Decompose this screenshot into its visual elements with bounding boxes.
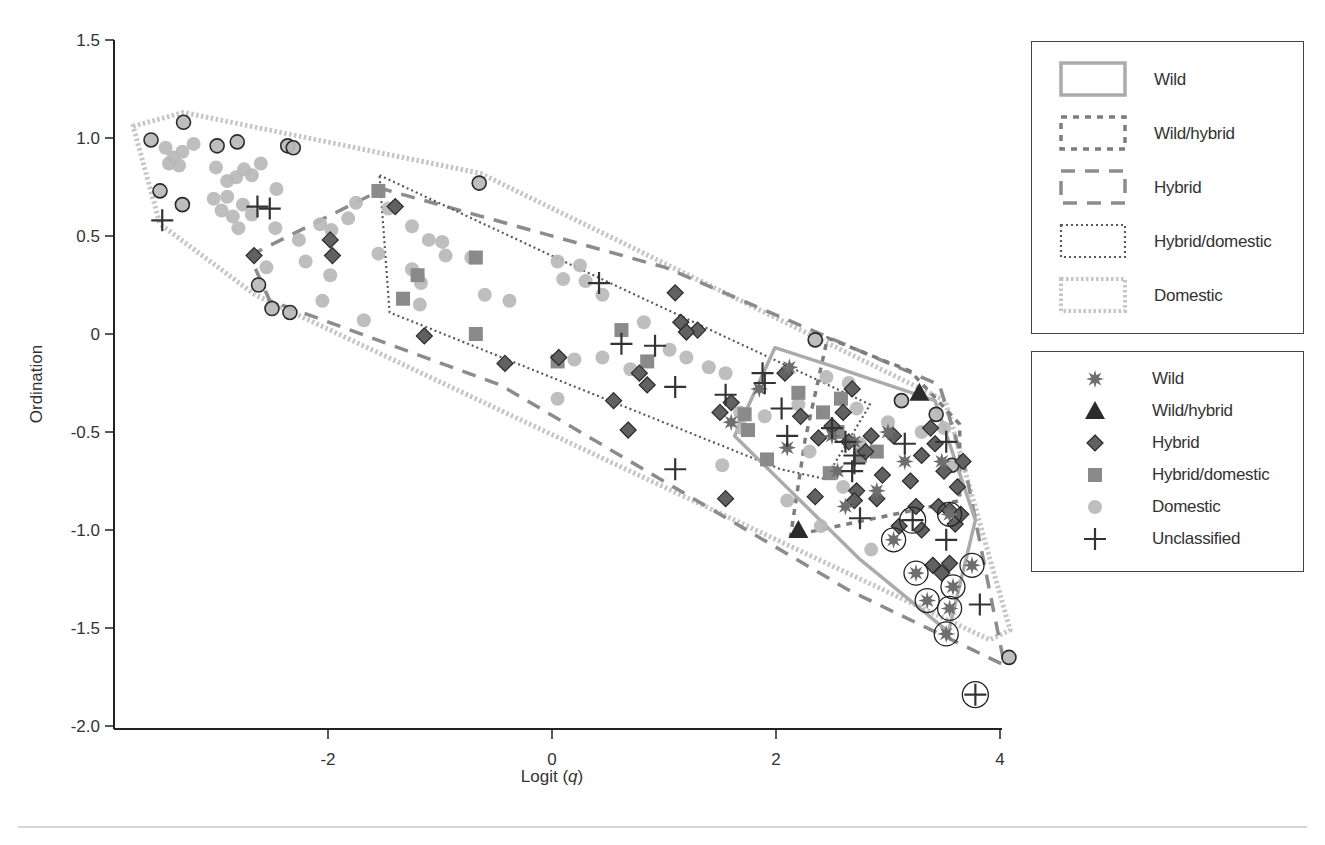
- hybrid-domestic-point: [640, 354, 654, 368]
- hull-swatch-icon: [1058, 276, 1130, 316]
- hybrid-domestic-point: [816, 405, 830, 419]
- points-layer: [144, 115, 1016, 707]
- hybrid-point: [620, 422, 636, 438]
- marker-legend-label: Wild/hybrid: [1152, 401, 1233, 421]
- domestic-point: [472, 176, 486, 190]
- triangle-marker-icon: [1080, 398, 1110, 424]
- domestic-point: [265, 302, 279, 316]
- domestic-point: [1002, 650, 1016, 664]
- domestic-point: [252, 278, 266, 292]
- marker-legend: WildWild/hybridHybridHybrid/domesticDome…: [1031, 351, 1304, 572]
- hybrid-point: [914, 448, 930, 464]
- wild-point: [907, 564, 925, 582]
- hybrid-point: [807, 489, 823, 505]
- domestic-point: [315, 294, 329, 308]
- domestic-point: [144, 133, 158, 147]
- square-marker-icon: [1080, 462, 1110, 488]
- domestic-point: [864, 543, 878, 557]
- domestic-point: [220, 190, 234, 204]
- hull-swatch-icon: [1058, 114, 1130, 154]
- wild-point: [896, 452, 914, 470]
- domestic-point: [573, 258, 587, 272]
- domestic-point: [245, 168, 259, 182]
- hybrid-point: [497, 355, 513, 371]
- domestic-point: [719, 366, 733, 380]
- domestic-point: [292, 233, 306, 247]
- domestic-point: [435, 235, 449, 249]
- domestic-point: [551, 392, 565, 406]
- domestic-point: [567, 352, 581, 366]
- unclassified-point: [935, 529, 957, 551]
- domestic-point: [349, 196, 363, 210]
- hull-legend-item: Hybrid/domestic: [1058, 222, 1271, 262]
- unclassified-point: [776, 425, 798, 447]
- diamond-marker-icon: [1080, 430, 1110, 456]
- hybrid-domestic-point: [396, 292, 410, 306]
- y-tick-label: -1.0: [71, 521, 100, 540]
- hybrid-point: [712, 404, 728, 420]
- unclassified-point: [752, 362, 774, 384]
- hybrid-domestic-point: [469, 327, 483, 341]
- hull-legend-item: Wild/hybrid: [1058, 114, 1235, 154]
- domestic-point: [341, 211, 355, 225]
- unclassified-point: [259, 198, 281, 220]
- hybrid-domestic-point: [738, 407, 752, 421]
- wild-hybrid-point: [1085, 401, 1105, 419]
- hybrid-point: [874, 467, 890, 483]
- y-tick-label: -1.5: [71, 619, 100, 638]
- hybrid-domestic-point: [760, 452, 774, 466]
- unclassified-point: [610, 333, 632, 355]
- domestic-point: [371, 247, 385, 261]
- domestic-point: [894, 394, 908, 408]
- hybrid-point: [606, 393, 622, 409]
- domestic-point: [405, 219, 419, 233]
- hull-legend-label: Hybrid/domestic: [1154, 232, 1271, 252]
- marker-legend-label: Hybrid: [1152, 433, 1199, 453]
- wild-point: [1086, 370, 1104, 388]
- wild-point: [836, 498, 854, 516]
- unclassified-point: [849, 507, 871, 529]
- domestic-point: [637, 315, 651, 329]
- hybrid-point: [793, 408, 809, 424]
- domestic-point: [175, 198, 189, 212]
- hybrid-point: [1087, 435, 1103, 451]
- x-tick-label: -2: [320, 750, 335, 769]
- hull-swatch-icon: [1058, 168, 1130, 208]
- domestic-point: [153, 184, 167, 198]
- domestic-point: [210, 139, 224, 153]
- domestic-point: [803, 445, 817, 459]
- y-axis-title: Ordination: [27, 345, 46, 423]
- x-ticks: -2024: [320, 729, 1004, 769]
- wild-point: [722, 413, 740, 431]
- hull-legend-item: Wild: [1058, 60, 1186, 100]
- y-tick-label: 1.5: [76, 31, 100, 50]
- y-tick-label: 0.5: [76, 227, 100, 246]
- marker-legend-item: Wild: [1080, 366, 1184, 392]
- domestic-point: [556, 272, 570, 286]
- domestic-point: [808, 333, 822, 347]
- hybrid-domestic-point: [834, 392, 848, 406]
- domestic-point: [836, 480, 850, 494]
- hull-legend-item: Domestic: [1058, 276, 1222, 316]
- hull-legend-label: Hybrid: [1154, 178, 1201, 198]
- domestic-point: [283, 305, 297, 319]
- hybrid-point: [835, 404, 851, 420]
- unclassified-point: [644, 335, 666, 357]
- marker-legend-item: Hybrid: [1080, 430, 1199, 456]
- hybrid-domestic-point: [741, 423, 755, 437]
- marker-legend-label: Unclassified: [1152, 529, 1240, 549]
- domestic-point: [286, 141, 300, 155]
- domestic-point: [207, 192, 221, 206]
- y-tick-label: 1.0: [76, 129, 100, 148]
- hull-swatch-icon: [1058, 60, 1130, 100]
- x-tick-label: 4: [995, 750, 1004, 769]
- domestic-point: [715, 458, 729, 472]
- hybrid-domestic-point: [1088, 468, 1102, 482]
- unclassified-point: [771, 397, 793, 419]
- hull-swatch-icon: [1058, 222, 1130, 262]
- y-tick-label: 0: [91, 325, 100, 344]
- domestic-point: [502, 294, 516, 308]
- domestic-point: [268, 221, 282, 235]
- domestic-point: [850, 401, 864, 415]
- unclassified-point: [1084, 528, 1106, 550]
